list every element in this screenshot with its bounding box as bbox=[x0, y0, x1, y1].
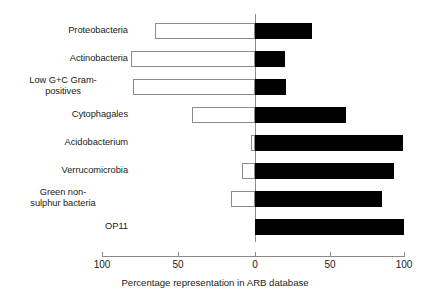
open-bar-proteobacteria bbox=[155, 23, 255, 39]
x-axis-tick-label: 50 bbox=[158, 259, 198, 270]
x-axis-tick-label: 100 bbox=[82, 259, 122, 270]
bar-row bbox=[0, 107, 430, 123]
filled-bar-actinobacteria bbox=[255, 51, 285, 67]
bar-row bbox=[0, 219, 430, 235]
bar-row bbox=[0, 23, 430, 39]
x-axis-tick bbox=[255, 252, 256, 256]
filled-bar-low-gc-gram-positives bbox=[255, 79, 286, 95]
x-axis-title: Percentage representation in ARB databas… bbox=[0, 277, 430, 288]
bar-row bbox=[0, 163, 430, 179]
filled-bar-verrucomicrobia bbox=[255, 163, 394, 179]
open-bar-verrucomicrobia bbox=[242, 163, 255, 179]
x-axis-tick bbox=[330, 252, 331, 256]
x-axis-tick bbox=[404, 252, 405, 256]
open-bar-green-non-sulphur-bacteria bbox=[231, 191, 255, 207]
x-axis-line bbox=[102, 256, 405, 257]
x-axis-tick-label: 100 bbox=[384, 259, 424, 270]
bar-row bbox=[0, 191, 430, 207]
x-axis-tick-label: 50 bbox=[310, 259, 350, 270]
x-axis-tick-label: 0 bbox=[235, 259, 275, 270]
chart-figure: Proteobacteria Actinobacteria Low G+C Gr… bbox=[0, 0, 430, 298]
plot-area bbox=[0, 0, 430, 250]
bar-row bbox=[0, 79, 430, 95]
open-bar-actinobacteria bbox=[131, 51, 255, 67]
filled-bar-green-non-sulphur-bacteria bbox=[255, 191, 382, 207]
open-bar-low-gc-gram-positives bbox=[133, 79, 255, 95]
x-axis-tick bbox=[102, 252, 103, 256]
filled-bar-op11 bbox=[255, 219, 404, 235]
open-bar-cytophagales bbox=[192, 107, 255, 123]
bar-row bbox=[0, 51, 430, 67]
bar-row bbox=[0, 135, 430, 151]
zero-axis-line bbox=[255, 14, 256, 242]
filled-bar-acidobacterium bbox=[255, 135, 403, 151]
x-axis-tick bbox=[178, 252, 179, 256]
filled-bar-cytophagales bbox=[255, 107, 346, 123]
filled-bar-proteobacteria bbox=[255, 23, 312, 39]
